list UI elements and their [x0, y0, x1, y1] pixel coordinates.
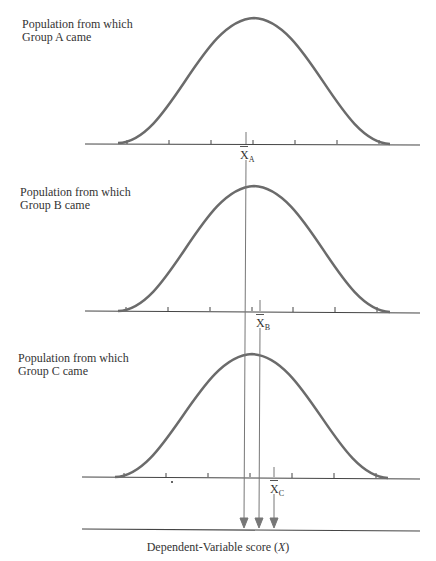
- normal-curve-b: [118, 186, 390, 312]
- dependent-variable-axis: [82, 529, 420, 531]
- diagram-canvas: [0, 0, 436, 561]
- speck: [171, 481, 173, 483]
- normal-curve-a: [118, 18, 390, 144]
- panel-c-label: Population from which Group C came: [18, 352, 129, 378]
- panel-a-label: Population from which Group A came: [22, 18, 133, 44]
- panel-c: [82, 354, 420, 483]
- baseline-a: [85, 144, 420, 145]
- ticks-a: [127, 140, 379, 144]
- panel-b-label-line2: Group B came: [20, 199, 131, 212]
- mean-arrows: [240, 160, 278, 528]
- baseline-c: [82, 477, 420, 479]
- panel-c-label-line2: Group C came: [18, 365, 129, 378]
- normal-curve-c: [115, 354, 388, 478]
- mean-label-c: XC: [270, 482, 284, 498]
- mean-label-b: XB: [256, 316, 270, 332]
- panel-a: [85, 18, 420, 145]
- panel-b: [85, 186, 420, 313]
- x-axis-label: Dependent-Variable score (X): [0, 540, 436, 555]
- arrow-a: [244, 160, 246, 522]
- panel-a-label-line2: Group A came: [22, 31, 133, 44]
- arrow-b: [259, 328, 260, 522]
- mean-label-a: XA: [240, 148, 254, 164]
- panel-b-label: Population from which Group B came: [20, 186, 131, 212]
- baseline-b: [85, 311, 420, 313]
